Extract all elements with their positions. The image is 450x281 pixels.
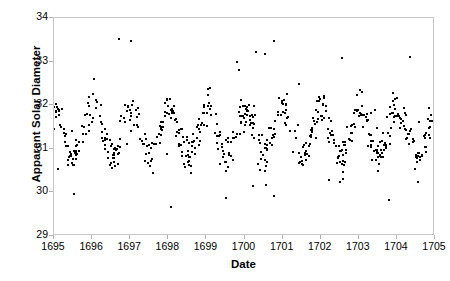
data-point [119, 138, 121, 140]
data-point [297, 124, 299, 126]
data-point [132, 100, 134, 102]
data-point [232, 159, 234, 161]
data-point [151, 158, 153, 160]
data-point [207, 94, 209, 96]
data-point [412, 141, 414, 143]
data-point [250, 122, 252, 124]
data-point [317, 111, 319, 113]
data-point [342, 160, 344, 162]
data-point [281, 102, 283, 104]
data-point [265, 184, 267, 186]
data-point [191, 151, 193, 153]
data-point [235, 136, 237, 138]
data-point [222, 156, 224, 158]
data-point [385, 146, 387, 148]
data-point [337, 156, 339, 158]
data-point [75, 139, 77, 141]
data-point [342, 154, 344, 156]
data-point [302, 146, 304, 148]
data-point [67, 145, 69, 147]
data-point [194, 147, 196, 149]
data-point [174, 119, 176, 121]
data-point [374, 109, 376, 111]
data-point [200, 124, 202, 126]
data-point [167, 105, 169, 107]
data-point [253, 123, 255, 125]
data-point [210, 114, 212, 116]
data-point [389, 135, 391, 137]
data-point [170, 117, 172, 119]
data-point [274, 133, 276, 135]
data-point [78, 141, 80, 143]
data-point [171, 108, 173, 110]
data-point [104, 139, 106, 141]
data-point [199, 131, 201, 133]
x-tick-mark [358, 235, 359, 239]
data-point [353, 112, 355, 114]
data-point [171, 112, 173, 114]
data-point [244, 113, 246, 115]
data-point [322, 104, 324, 106]
data-point [266, 149, 268, 151]
data-point [300, 156, 302, 158]
data-point [383, 149, 385, 151]
data-point [219, 163, 221, 165]
data-point [60, 126, 62, 128]
data-point [328, 141, 330, 143]
data-point [224, 161, 226, 163]
data-point [333, 139, 335, 141]
data-point [342, 171, 344, 173]
x-tick-mark [282, 235, 283, 239]
data-point [111, 167, 113, 169]
data-point [189, 156, 191, 158]
data-point [373, 150, 375, 152]
data-point [331, 130, 333, 132]
x-tick-label: 1695 [33, 241, 73, 252]
data-point [238, 69, 240, 71]
data-point [286, 117, 288, 119]
data-point [321, 119, 323, 121]
data-point [377, 170, 379, 172]
data-point [317, 118, 319, 120]
data-point [190, 172, 192, 174]
data-point [175, 135, 177, 137]
data-point [202, 112, 204, 114]
data-point [181, 155, 183, 157]
data-point [221, 146, 223, 148]
data-point [377, 145, 379, 147]
data-point [243, 117, 245, 119]
y-tick-label: 29 [22, 229, 48, 239]
data-point [247, 110, 249, 112]
data-point [372, 140, 374, 142]
data-point [305, 159, 307, 161]
data-point [253, 105, 255, 107]
data-point [145, 138, 147, 140]
data-point [145, 153, 147, 155]
data-point [156, 136, 158, 138]
data-point [408, 133, 410, 135]
data-point [83, 126, 85, 128]
data-point [393, 121, 395, 123]
data-point [72, 164, 74, 166]
data-point [146, 145, 148, 147]
data-point [392, 100, 394, 102]
data-point [95, 107, 97, 109]
y-tick-label: 31 [22, 142, 48, 152]
data-point [217, 148, 219, 150]
data-point [255, 51, 257, 53]
data-point [266, 161, 268, 163]
data-point [82, 133, 84, 135]
data-point [88, 124, 90, 126]
data-point [114, 165, 116, 167]
data-point [262, 154, 264, 156]
data-point [201, 122, 203, 124]
data-point [292, 151, 294, 153]
data-point [55, 116, 57, 118]
data-point [198, 144, 200, 146]
data-point [127, 106, 129, 108]
data-point [429, 137, 431, 139]
data-point [248, 104, 250, 106]
data-point [264, 53, 266, 55]
data-point [219, 134, 221, 136]
data-point [418, 152, 420, 154]
